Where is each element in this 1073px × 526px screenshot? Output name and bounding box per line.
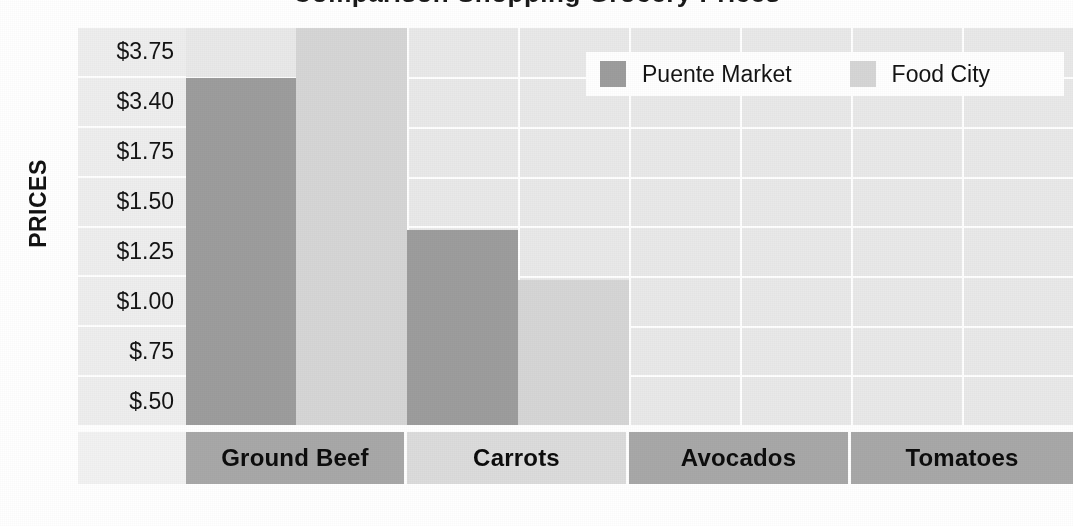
legend-item-food-city[interactable]: Food City — [850, 61, 990, 88]
y-axis-tick: $.50 — [78, 377, 186, 425]
category-label-ground-beef[interactable]: Ground Beef — [186, 432, 407, 484]
y-axis-tick: $1.50 — [78, 178, 186, 228]
y-axis-tick: $1.00 — [78, 277, 186, 327]
y-axis-tick: $1.75 — [78, 128, 186, 178]
bar-chart: Comparison Shopping Grocery Prices PRICE… — [0, 0, 1073, 526]
bar-carrots-food-city[interactable] — [518, 280, 629, 425]
bar-ground-beef-food-city[interactable] — [296, 28, 407, 425]
legend-label: Food City — [892, 61, 990, 88]
bar-ground-beef-puente-market[interactable] — [186, 78, 296, 425]
bar-slot-ground-beef-puente[interactable] — [186, 28, 296, 425]
y-axis-tick: $.75 — [78, 327, 186, 377]
y-axis-tick-column: $3.75 $3.40 $1.75 $1.50 $1.25 $1.00 $.75… — [78, 28, 186, 425]
category-label-carrots[interactable]: Carrots — [407, 432, 629, 484]
y-axis-tick: $3.75 — [78, 28, 186, 78]
category-band: Ground Beef Carrots Avocados Tomatoes — [186, 432, 1073, 484]
y-axis-tick: $1.25 — [78, 228, 186, 278]
bar-slot-carrots-puente[interactable] — [407, 28, 518, 425]
chart-title-cropped: Comparison Shopping Grocery Prices — [0, 0, 1073, 12]
legend-label: Puente Market — [642, 61, 792, 88]
legend-item-puente-market[interactable]: Puente Market — [600, 61, 792, 88]
category-label-avocados[interactable]: Avocados — [629, 432, 851, 484]
legend-swatch-icon — [850, 61, 876, 87]
chart-title-text: Comparison Shopping Grocery Prices — [0, 0, 1073, 6]
legend-swatch-icon — [600, 61, 626, 87]
y-axis-label: PRICES — [25, 144, 52, 264]
y-axis-tick: $3.40 — [78, 78, 186, 128]
category-label-tomatoes[interactable]: Tomatoes — [851, 432, 1073, 484]
bar-carrots-puente-market[interactable] — [407, 230, 518, 425]
legend: Puente Market Food City — [586, 52, 1064, 96]
bar-slot-ground-beef-foodcity[interactable] — [296, 28, 407, 425]
category-band-spacer — [78, 432, 186, 484]
